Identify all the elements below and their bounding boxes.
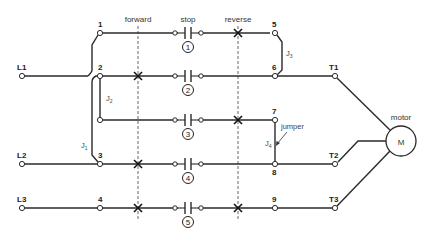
label-j1: J1	[81, 141, 88, 151]
contact-number-5: 5	[186, 218, 191, 227]
terminal-l1	[19, 73, 24, 78]
label-j2: J2	[106, 94, 113, 104]
terminal-l2	[19, 161, 24, 166]
node-2	[97, 73, 102, 78]
label-node-5: 5	[272, 20, 277, 29]
label-l1: L1	[17, 63, 27, 72]
terminal-t1	[332, 73, 337, 78]
reverse-label: reverse	[225, 15, 252, 24]
motor-symbol: M	[398, 138, 405, 147]
node-9	[272, 205, 277, 210]
node-6	[272, 73, 277, 78]
t3-motor-wire	[337, 151, 390, 206]
node-5	[272, 30, 277, 35]
node-1	[97, 30, 102, 35]
motor-label: motor	[391, 113, 412, 122]
node-8	[272, 161, 277, 166]
contact-5: 5	[173, 202, 203, 228]
label-t2: T2	[329, 151, 339, 160]
contact-number-2: 2	[186, 86, 191, 95]
label-j3: J3	[286, 49, 293, 59]
terminal-l3	[19, 205, 24, 210]
node-j2-bottom	[97, 117, 102, 122]
jumper-j1	[92, 82, 98, 162]
node-3	[97, 161, 102, 166]
terminal-t3	[332, 205, 337, 210]
contact-number-1: 1	[186, 43, 191, 52]
label-l2: L2	[17, 151, 27, 160]
t2-motor-wire	[338, 141, 386, 162]
wiring-diagram: forward stop reverse M motor 1	[0, 0, 429, 241]
label-node-8: 8	[272, 168, 277, 177]
node-7	[272, 117, 277, 122]
jumper-j3	[277, 35, 282, 75]
contact-1: 1	[173, 27, 203, 53]
label-node-3: 3	[98, 151, 103, 160]
label-j4: J4	[265, 139, 272, 149]
label-t3: T3	[329, 195, 339, 204]
label-node-1: 1	[98, 20, 103, 29]
contact-2: 2	[173, 70, 203, 96]
contact-4: 4	[173, 158, 203, 184]
label-t1: T1	[329, 63, 339, 72]
terminal-t2	[332, 161, 337, 166]
forward-label: forward	[125, 15, 152, 24]
stop-label: stop	[180, 15, 196, 24]
contact-number-4: 4	[186, 174, 191, 183]
label-l3: L3	[17, 195, 27, 204]
contact-3: 3	[173, 114, 203, 140]
node-4	[97, 205, 102, 210]
label-node-7: 7	[272, 107, 277, 116]
jumper-arrowhead-icon	[276, 141, 280, 146]
label-node-9: 9	[272, 195, 277, 204]
jumper-callout: jumper	[280, 122, 304, 131]
label-node-4: 4	[98, 195, 103, 204]
row2-wire	[92, 76, 332, 82]
label-node-2: 2	[98, 63, 103, 72]
t1-motor-wire	[337, 78, 391, 131]
label-node-6: 6	[272, 63, 277, 72]
contact-number-3: 3	[186, 130, 191, 139]
